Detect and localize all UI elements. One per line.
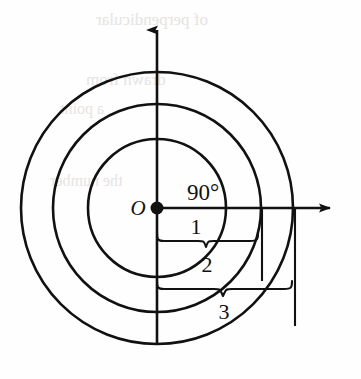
angle-label: 90° bbox=[187, 180, 219, 205]
brace-label-1: 1 bbox=[191, 214, 202, 239]
origin-dot bbox=[151, 202, 164, 215]
concentric-circles-figure: O 90° 1 2 3 bbox=[0, 0, 361, 379]
brace-upper bbox=[157, 232, 258, 247]
origin-label: O bbox=[130, 196, 145, 220]
brace-label-3: 3 bbox=[219, 299, 230, 324]
brace-label-2: 2 bbox=[202, 252, 213, 277]
figure-page: of perpendicular drawn from a point the … bbox=[0, 0, 361, 379]
